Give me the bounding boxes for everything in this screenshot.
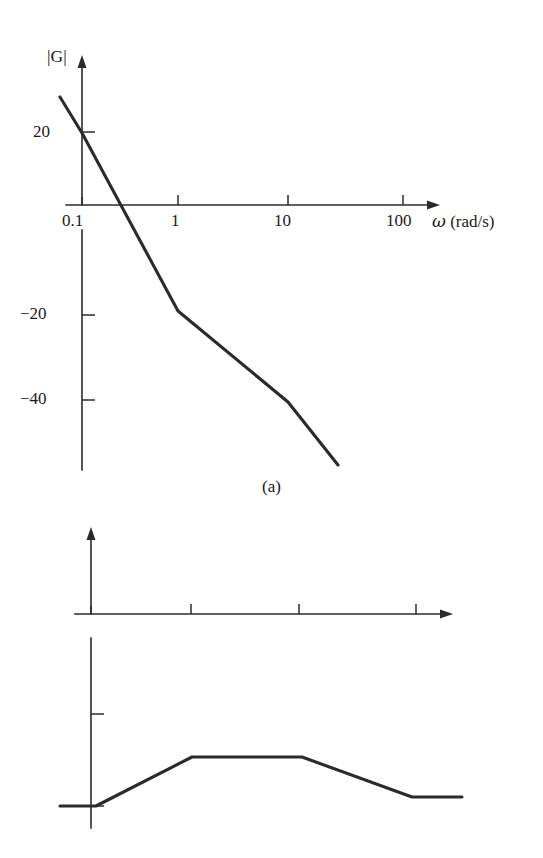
- bode-plot-figure: |G| 20 −20 −40 0.1 1 10 100 ω (rad/s) (a…: [0, 0, 543, 858]
- magnitude-xtick-label-10: 10: [274, 212, 291, 229]
- magnitude-xtick-label-100: 100: [386, 212, 412, 229]
- magnitude-xtick-label-0.1: 0.1: [62, 212, 83, 229]
- phase-curve: [60, 757, 462, 806]
- omega-symbol: ω: [432, 211, 446, 231]
- magnitude-ytick-label-20: 20: [33, 123, 50, 140]
- magnitude-curve: [60, 97, 338, 465]
- magnitude-xtick-label-1: 1: [171, 212, 180, 229]
- magnitude-ytick-label-minus40: −40: [20, 390, 47, 407]
- phase-y-axis-arrow-icon: [87, 527, 96, 540]
- magnitude-plot-panel: |G| 20 −20 −40 0.1 1 10 100 ω (rad/s) (a…: [0, 0, 543, 500]
- magnitude-y-axis-label: |G|: [47, 48, 67, 66]
- phase-x-axis-arrow-icon: [440, 610, 453, 619]
- magnitude-x-axis-unit: (rad/s): [446, 212, 495, 231]
- phase-plot-svg: [0, 480, 543, 858]
- magnitude-plot-svg: [0, 0, 543, 500]
- magnitude-y-axis-arrow-icon: [78, 55, 87, 68]
- magnitude-x-axis-label: ω (rad/s): [432, 213, 495, 230]
- magnitude-x-axis-arrow-icon: [427, 201, 440, 210]
- magnitude-ytick-label-minus20: −20: [20, 305, 47, 322]
- phase-plot-panel: arg G −90° −180° 0.1 1 10 100 ω (rad/s) …: [0, 480, 543, 858]
